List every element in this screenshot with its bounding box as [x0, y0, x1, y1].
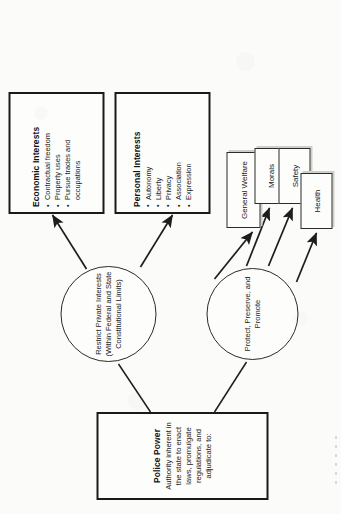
personal-interests-title: Personal Interests: [131, 99, 141, 207]
health-box: Health: [300, 173, 332, 229]
list-item: Property uses: [52, 99, 62, 207]
list-item: Association: [173, 99, 183, 207]
list-item: Privacy: [163, 99, 173, 207]
police-power-box: Police Power Authority inherent in the s…: [96, 412, 268, 500]
edge-restrict-to-economic: [52, 215, 86, 269]
economic-interests-list: Contractual freedom Property uses Pursue…: [42, 99, 82, 207]
list-item: Expression: [183, 99, 193, 207]
edge-protect-to-health: [296, 233, 316, 282]
economic-interests-box: Economic Interests Contractual freedom P…: [8, 92, 104, 214]
general-welfare-label: General Welfare: [239, 161, 248, 219]
hub-restrict-label: Restrict Private Interests (Within Feder…: [93, 267, 123, 361]
police-power-title: Police Power: [151, 419, 161, 493]
list-item: Pursue trades and occupations: [62, 99, 81, 207]
safety-label: Safety: [290, 165, 299, 188]
edge-root-to-protect: [214, 362, 246, 412]
list-item: Contractual freedom: [42, 99, 52, 207]
morals-label: Morals: [266, 164, 275, 188]
hub-protect: Protect, Preserve, and Promote: [206, 268, 298, 360]
edge-restrict-to-personal: [140, 215, 172, 267]
hub-restrict: Restrict Private Interests (Within Feder…: [60, 266, 156, 362]
edge-protect-to-safety: [268, 208, 292, 266]
health-label: Health: [312, 189, 321, 212]
diagram-canvas: Police Power Authority inherent in the s…: [0, 0, 341, 514]
police-power-description: Authority inherent in the state to enact…: [163, 419, 213, 493]
list-item: Autonomy: [143, 99, 153, 207]
edge-root-to-restrict: [118, 364, 150, 412]
list-item: Liberty: [153, 99, 163, 207]
hub-protect-label: Protect, Preserve, and Promote: [242, 269, 262, 359]
economic-interests-title: Economic Interests: [30, 99, 40, 207]
personal-interests-box: Personal Interests Autonomy Liberty Priv…: [114, 92, 210, 214]
personal-interests-list: Autonomy Liberty Privacy Association Exp…: [143, 99, 194, 207]
page-edge-artifact: [335, 436, 337, 488]
